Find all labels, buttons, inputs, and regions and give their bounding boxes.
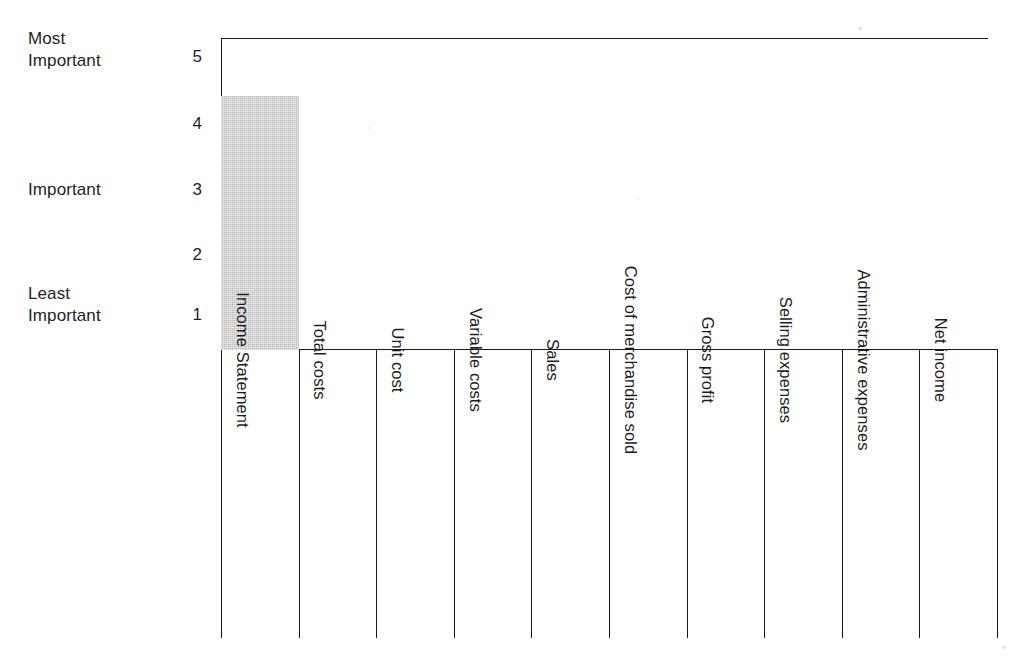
- y-axis-label-least-important: Least Important: [28, 283, 101, 327]
- table-column-10: Net income: [919, 350, 998, 638]
- scan-artifact: [637, 198, 639, 200]
- column-label: Gross profit: [698, 317, 717, 403]
- y-axis-tick-2: 2: [162, 245, 202, 265]
- column-label: Net income: [931, 318, 950, 402]
- y-axis-label-important: Important: [28, 179, 101, 201]
- table-column-8: Selling expenses: [764, 350, 842, 638]
- table-column-3: Unit cost: [376, 350, 454, 638]
- bar-chart: Most Important Important Least Important…: [0, 0, 1019, 668]
- scan-artifact: [859, 27, 862, 30]
- table-column-2: Total costs: [299, 350, 377, 638]
- table-column-7: Gross profit: [687, 350, 765, 638]
- y-axis-tick-4: 4: [162, 114, 202, 134]
- scan-artifact: [1003, 646, 1006, 649]
- y-axis-label-most-important: Most Important: [28, 28, 101, 72]
- table-column-4: Variable costs: [454, 350, 532, 638]
- column-label: Total costs: [310, 320, 329, 399]
- bars-layer: [221, 38, 998, 350]
- column-label: Administrative expenses: [854, 269, 873, 450]
- column-label: Sales: [543, 339, 562, 381]
- category-label-table: Income StatementTotal costsUnit costVari…: [221, 350, 998, 638]
- table-column-9: Administrative expenses: [842, 350, 920, 638]
- column-label: Unit cost: [388, 327, 407, 392]
- table-column-6: Cost of merchandise sold: [609, 350, 687, 638]
- table-column-5: Sales: [531, 350, 609, 638]
- y-axis-tick-1: 1: [162, 305, 202, 325]
- y-axis-tick-3: 3: [162, 180, 202, 200]
- column-label: Variable costs: [466, 308, 485, 412]
- table-column-1: Income Statement: [221, 350, 299, 638]
- y-axis-tick-5: 5: [162, 47, 202, 67]
- column-label: Cost of merchandise sold: [621, 266, 640, 455]
- scan-artifact: [369, 127, 371, 129]
- column-label: Income Statement: [233, 292, 252, 428]
- column-label: Selling expenses: [776, 297, 795, 423]
